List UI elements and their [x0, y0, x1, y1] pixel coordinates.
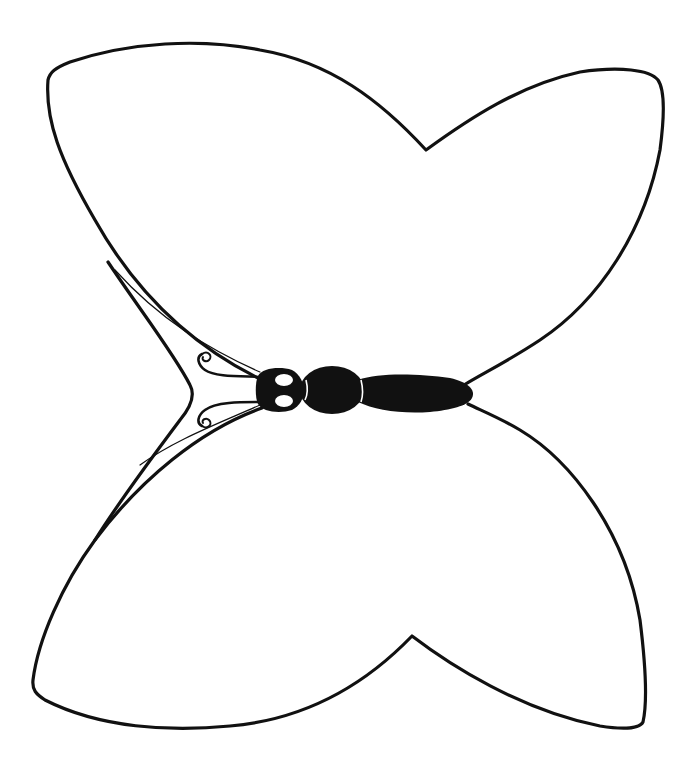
upper-antenna-curl: [202, 353, 210, 362]
lower-antenna-curl: [202, 419, 210, 428]
butterfly-drawing: [0, 0, 691, 771]
upper-eye: [275, 374, 293, 386]
lower-wings-outline: [33, 404, 646, 728]
butterfly-canvas: butterfly outline line drawing: [0, 0, 691, 771]
lower-eye: [275, 395, 293, 407]
upper-wings-outline: [48, 43, 664, 385]
left-waist-outline: [95, 262, 192, 540]
upper-thin-line: [115, 270, 260, 372]
abdomen: [358, 375, 473, 413]
thorax: [300, 366, 364, 414]
